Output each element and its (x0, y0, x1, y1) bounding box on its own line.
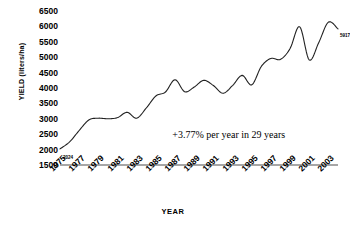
y-tick-label: 4500 (22, 68, 58, 77)
y-tick-label: 2500 (22, 130, 58, 139)
plot-area (60, 11, 338, 165)
plot-svg (60, 11, 338, 165)
y-tick-label: 6500 (22, 7, 58, 16)
x-axis-tick-labels: 1975197719791981198319851987198919911993… (60, 167, 338, 203)
y-tick-label: 6000 (22, 22, 58, 31)
x-axis-title: YEAR (0, 207, 346, 216)
y-tick-label: 2000 (22, 145, 58, 154)
y-tick-label: 5500 (22, 38, 58, 47)
start-value-label: 2024 (63, 155, 73, 160)
y-tick-label: 4000 (22, 84, 58, 93)
y-axis-tick-labels: 6500600055005000450040003500300025002000… (22, 11, 58, 165)
growth-rate-note: +3.77% per year in 29 years (172, 129, 285, 140)
y-tick-label: 5000 (22, 53, 58, 62)
y-tick-label: 3000 (22, 115, 58, 124)
end-value-label: 5917 (340, 33, 350, 38)
y-tick-label: 3500 (22, 99, 58, 108)
